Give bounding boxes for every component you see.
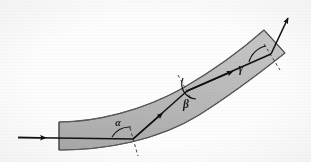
- waveguide-slab-group: [59, 30, 285, 150]
- angle-label-beta: β: [182, 98, 189, 111]
- angle-label-gamma: γ: [239, 62, 244, 75]
- figure-root: α β γ: [0, 0, 311, 162]
- angle-label-alpha: α: [115, 117, 121, 128]
- ray-diagram-canvas: α β γ: [0, 0, 311, 162]
- waveguide-slab-body: [59, 30, 285, 150]
